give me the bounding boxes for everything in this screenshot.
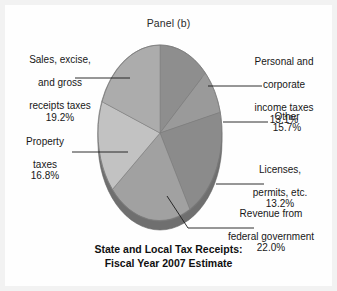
chart-title-line1: State and Local Tax Receipts: <box>94 243 242 255</box>
chart-title: State and Local Tax Receipts: Fiscal Yea… <box>0 243 337 270</box>
slice-label-sales-line3: receipts taxes <box>29 100 91 111</box>
slice-label-federal-line2: federal government <box>228 231 314 242</box>
slice-percent-property: 16.8% <box>6 170 84 182</box>
slice-label-sales: Sales, excise, and gross receipts taxes … <box>8 42 112 135</box>
slice-label-property-line1: Property <box>26 136 64 147</box>
slice-label-sales-line2: and gross <box>38 77 82 88</box>
figure-panel-b: Panel (b) Sales, excise, and gross recei… <box>0 0 337 291</box>
slice-label-other: Other 15.7% <box>248 99 326 145</box>
slice-label-personal-line1: Personal and <box>255 56 314 67</box>
slice-label-other-line1: Other <box>274 111 299 122</box>
slice-label-property-line2: taxes <box>33 159 57 170</box>
slice-label-federal-line1: Revenue from <box>240 208 303 219</box>
slice-label-sales-line1: Sales, excise, <box>29 54 91 65</box>
slice-label-property: Property taxes 16.8% <box>6 124 84 194</box>
slice-percent-sales: 19.2% <box>8 112 112 124</box>
chart-title-line2: Fiscal Year 2007 Estimate <box>0 257 337 271</box>
slice-label-personal-line2: corporate <box>263 79 305 90</box>
slice-label-licenses-line1: Licenses, <box>259 164 301 175</box>
slice-percent-other: 15.7% <box>248 122 326 134</box>
